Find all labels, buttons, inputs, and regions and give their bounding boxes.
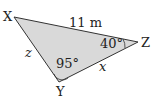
side-label-yz: x — [99, 59, 107, 74]
vertex-label-z: Z — [141, 35, 150, 50]
side-label-xz: 11 m — [69, 15, 102, 30]
side-label-xy: z — [24, 45, 32, 60]
vertex-label-y: Y — [55, 84, 65, 99]
angle-label-y: 95° — [56, 56, 79, 71]
vertex-label-x: X — [3, 9, 13, 24]
angle-label-z: 40° — [100, 36, 123, 51]
triangle-diagram: X Z Y 11 m z x 40° 95° — [0, 0, 157, 112]
